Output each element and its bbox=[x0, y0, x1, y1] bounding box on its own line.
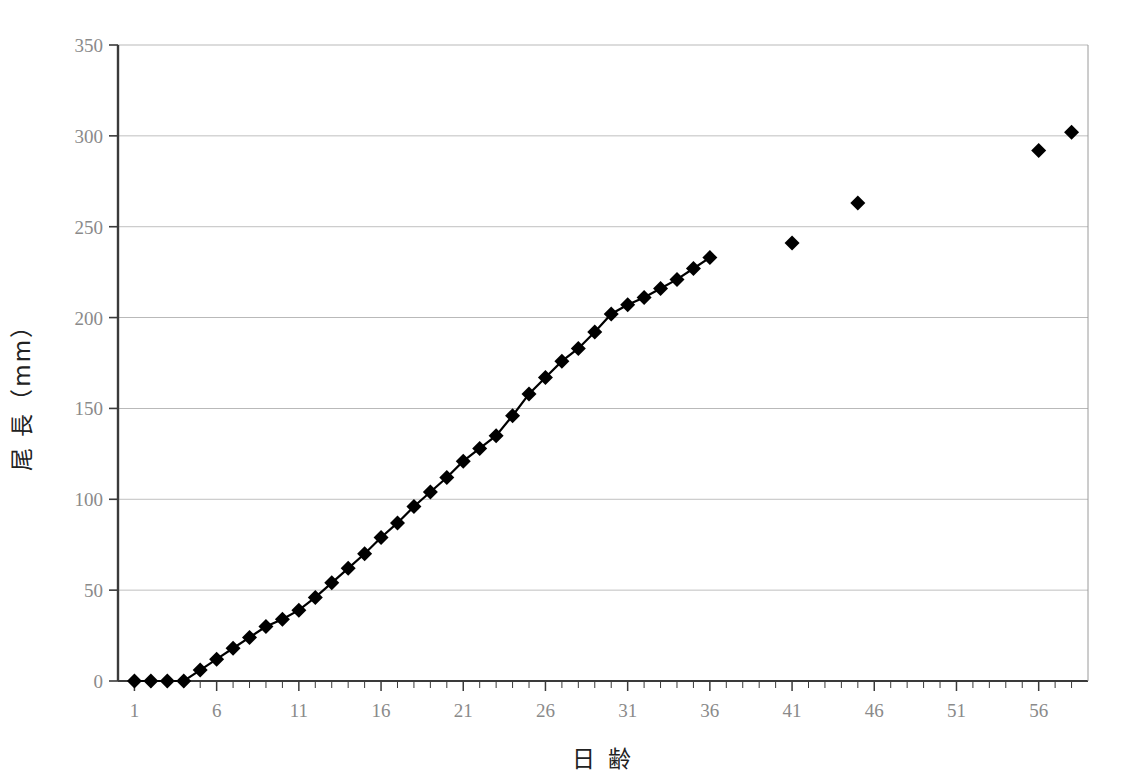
svg-text:200: 200 bbox=[75, 308, 104, 329]
x-axis-ticks bbox=[134, 681, 1071, 691]
y-axis-ticks bbox=[109, 45, 118, 681]
svg-text:150: 150 bbox=[75, 398, 104, 419]
y-axis-tick-labels: 050100150200250300350 bbox=[75, 35, 104, 692]
svg-text:56: 56 bbox=[1029, 700, 1048, 721]
gridlines bbox=[118, 45, 1088, 590]
x-axis-tick-labels: 1611162126313641465156 bbox=[130, 700, 1048, 721]
svg-text:21: 21 bbox=[454, 700, 473, 721]
svg-text:6: 6 bbox=[212, 700, 222, 721]
x-axis-title: 日 齢 bbox=[118, 740, 1088, 774]
series-markers bbox=[127, 125, 1079, 689]
svg-text:0: 0 bbox=[94, 671, 104, 692]
svg-text:36: 36 bbox=[700, 700, 719, 721]
svg-text:300: 300 bbox=[75, 126, 104, 147]
svg-text:350: 350 bbox=[75, 35, 104, 56]
chart-figure: 050100150200250300350 161116212631364146… bbox=[0, 0, 1123, 783]
series-line-path bbox=[134, 258, 709, 681]
svg-text:100: 100 bbox=[75, 489, 104, 510]
svg-text:51: 51 bbox=[947, 700, 966, 721]
svg-text:46: 46 bbox=[865, 700, 884, 721]
svg-text:250: 250 bbox=[75, 217, 104, 238]
svg-text:11: 11 bbox=[290, 700, 308, 721]
svg-text:26: 26 bbox=[536, 700, 555, 721]
svg-text:1: 1 bbox=[130, 700, 140, 721]
svg-text:41: 41 bbox=[783, 700, 802, 721]
svg-text:50: 50 bbox=[84, 580, 103, 601]
svg-text:31: 31 bbox=[618, 700, 637, 721]
axis-lines bbox=[118, 45, 1088, 681]
growth-line-chart: 050100150200250300350 161116212631364146… bbox=[0, 0, 1123, 783]
svg-text:16: 16 bbox=[372, 700, 391, 721]
